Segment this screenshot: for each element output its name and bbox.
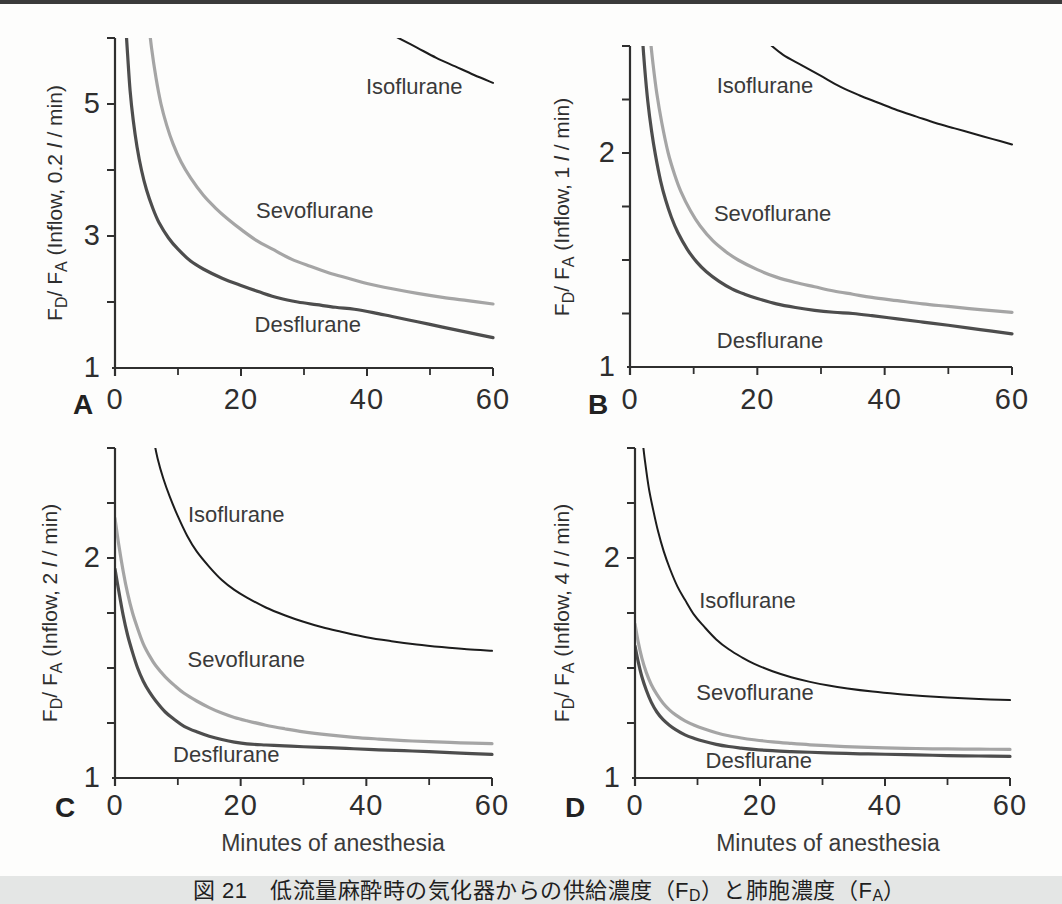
series-label-isoflurane: Isoflurane — [188, 502, 285, 527]
x-tick-label: 60 — [476, 383, 510, 415]
caption-subscript: A — [872, 887, 883, 904]
x-tick-label: 40 — [350, 383, 384, 415]
sevoflurane-curve — [148, 15, 493, 304]
series-label-isoflurane: Isoflurane — [717, 73, 814, 98]
isoflurane-curve — [153, 435, 492, 651]
figure-caption: 図 21 低流量麻酔時の気化器からの供給濃度（FD）と肺胞濃度（FA） — [193, 879, 906, 904]
x-tick-label: 60 — [995, 383, 1029, 415]
x-tick-label: 60 — [475, 789, 509, 821]
panel-letter-A: A — [73, 389, 93, 420]
caption-text: ）と肺胞濃度（F — [701, 878, 872, 903]
series-label-desflurane: Desflurane — [173, 742, 279, 767]
x-tick-label: 20 — [740, 383, 774, 415]
y-tick-label: 3 — [84, 219, 101, 251]
chart-panel-b: 120204060SevofluraneDesfluraneIsoflurane… — [531, 0, 1062, 420]
series-label-sevoflurane: Sevoflurane — [188, 647, 305, 672]
panel-letter-C: C — [55, 792, 75, 823]
x-axis-title: Minutes of anesthesia — [221, 830, 445, 856]
x-tick-label: 40 — [868, 789, 902, 821]
panel-letter-B: B — [588, 389, 608, 420]
series-label-sevoflurane: Sevoflurane — [256, 198, 373, 223]
caption-text: 図 21 低流量麻酔時の気化器からの供給濃度（F — [193, 878, 689, 903]
x-axis-title: Minutes of anesthesia — [716, 830, 940, 856]
series-label-isoflurane: Isoflurane — [366, 74, 463, 99]
series-label-isoflurane: Isoflurane — [699, 588, 796, 613]
series-label-desflurane: Desflurane — [717, 328, 823, 353]
caption-subscript: D — [689, 887, 701, 904]
desflurane-curve — [635, 646, 1010, 756]
series-label-sevoflurane: Sevoflurane — [696, 680, 813, 705]
sevoflurane-curve — [115, 518, 492, 743]
x-tick-label: 0 — [621, 383, 638, 415]
x-tick-label: 20 — [224, 789, 258, 821]
y-axis-title: FD/ FA (Inflow, 4 l / min) — [550, 504, 577, 722]
y-tick-label: 1 — [599, 350, 616, 382]
isoflurane-curve — [642, 435, 1010, 700]
y-axis-title: FD/ FA (Inflow, 1 l / min) — [550, 98, 577, 316]
y-tick-label: 1 — [84, 761, 101, 793]
panel-letter-D: D — [565, 792, 585, 823]
y-tick-label: 2 — [599, 136, 616, 168]
y-tick-label: 2 — [84, 541, 101, 573]
x-tick-label: 60 — [993, 789, 1027, 821]
y-axis-title: FD/ FA (Inflow, 0.2 l / min) — [43, 85, 70, 321]
x-tick-label: 40 — [868, 383, 902, 415]
x-tick-label: 20 — [743, 789, 777, 821]
y-tick-label: 2 — [604, 541, 621, 573]
caption-text: ） — [883, 878, 906, 903]
y-axis-title: FD/ FA (Inflow, 2 l / min) — [38, 504, 65, 722]
chart-panel-a: 1350204060SevofluraneDesfluraneIsofluran… — [0, 0, 531, 420]
figure-page: 1350204060SevofluraneDesfluraneIsofluran… — [0, 0, 1062, 904]
x-tick-label: 20 — [224, 383, 258, 415]
chart-panel-c: 120204060SevofluraneDesfluraneIsoflurane… — [0, 420, 531, 880]
x-tick-label: 40 — [349, 789, 383, 821]
x-tick-label: 0 — [106, 789, 123, 821]
x-tick-label: 0 — [626, 789, 643, 821]
series-label-desflurane: Desflurane — [255, 312, 361, 337]
y-tick-label: 1 — [604, 761, 621, 793]
series-label-sevoflurane: Sevoflurane — [714, 201, 831, 226]
y-tick-label: 5 — [84, 87, 101, 119]
sevoflurane-curve — [635, 624, 1010, 749]
series-label-desflurane: Desflurane — [706, 748, 812, 773]
desflurane-curve — [125, 15, 493, 338]
axes-C — [112, 448, 492, 786]
chart-panel-d: 120204060SevofluraneDesfluraneIsoflurane… — [531, 420, 1062, 880]
y-tick-label: 1 — [84, 351, 101, 383]
x-tick-label: 0 — [106, 383, 123, 415]
